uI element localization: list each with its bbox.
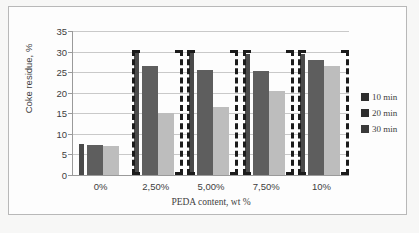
y-tick-mark	[68, 175, 72, 176]
legend-item[interactable]: 10 min	[361, 89, 419, 105]
y-tick-label: 25	[41, 67, 67, 78]
x-tick-label: 7,50%	[253, 181, 280, 192]
x-tick-label: 5,00%	[198, 181, 225, 192]
bar	[79, 144, 84, 175]
bar	[324, 66, 340, 175]
bar	[158, 113, 174, 175]
y-tick-mark	[68, 52, 72, 53]
annotation-bracket-cap	[286, 172, 294, 175]
y-tick-label: 30	[41, 46, 67, 57]
annotation-bracket-cap	[187, 50, 195, 53]
figure-background: Coke residue, % 05101520253035 0%2,50%5,…	[0, 0, 419, 233]
y-tick-label: 5	[41, 149, 67, 160]
y-tick-label: 35	[41, 26, 67, 37]
x-tick-label: 2,50%	[142, 181, 169, 192]
gridline	[73, 175, 349, 176]
bar	[197, 70, 213, 175]
bar-group	[294, 31, 349, 175]
annotation-bracket-cap	[341, 50, 349, 53]
y-axis-title: Coke residue, %	[23, 29, 34, 129]
y-tick-mark	[68, 93, 72, 94]
y-axis-tick-labels: 05101520253035	[37, 31, 67, 176]
annotation-bracket	[187, 50, 190, 175]
x-tick-label: 10%	[312, 181, 331, 192]
x-axis-tick-labels: 0%2,50%5,00%7,50%10%	[73, 181, 349, 195]
annotation-bracket-cap	[175, 50, 183, 53]
annotation-bracket-cap	[298, 172, 306, 175]
legend-swatch-icon	[361, 125, 369, 133]
chart-legend: 10 min20 min30 min	[361, 89, 419, 137]
y-tick-label: 0	[41, 170, 67, 181]
legend-swatch-icon	[361, 109, 369, 117]
y-tick-mark	[68, 154, 72, 155]
bar-group	[239, 31, 294, 175]
plot-area	[73, 31, 349, 175]
annotation-bracket-cap	[132, 172, 140, 175]
legend-label: 30 min	[372, 124, 397, 134]
x-tick-label: 0%	[94, 181, 108, 192]
bar	[213, 107, 229, 175]
annotation-bracket-cap	[230, 50, 238, 53]
annotation-bracket	[243, 50, 246, 175]
legend-item[interactable]: 30 min	[361, 121, 419, 137]
bar	[142, 66, 158, 175]
legend-item[interactable]: 20 min	[361, 105, 419, 121]
y-tick-mark	[68, 31, 72, 32]
bar-group	[73, 31, 128, 175]
annotation-bracket-cap	[230, 172, 238, 175]
y-tick-label: 15	[41, 108, 67, 119]
legend-label: 20 min	[372, 108, 397, 118]
annotation-bracket	[298, 50, 301, 175]
bar	[253, 71, 269, 175]
legend-swatch-icon	[361, 93, 369, 101]
bar-group	[183, 31, 238, 175]
annotation-bracket	[346, 50, 349, 175]
bar-group	[128, 31, 183, 175]
annotation-bracket-cap	[243, 50, 251, 53]
annotation-bracket	[132, 50, 135, 175]
annotation-bracket-cap	[286, 50, 294, 53]
bar	[308, 60, 324, 175]
annotation-bracket-cap	[132, 50, 140, 53]
annotation-bracket-cap	[298, 50, 306, 53]
bar	[103, 146, 119, 175]
y-tick-label: 10	[41, 128, 67, 139]
bar	[269, 91, 285, 175]
legend-label: 10 min	[372, 92, 397, 102]
x-axis-title: PEDA content, wt %	[73, 197, 349, 207]
annotation-bracket-cap	[187, 172, 195, 175]
annotation-bracket-cap	[243, 172, 251, 175]
y-tick-mark	[68, 113, 72, 114]
bar	[87, 145, 103, 175]
y-tick-mark	[68, 72, 72, 73]
y-tick-label: 20	[41, 87, 67, 98]
chart-frame: Coke residue, % 05101520253035 0%2,50%5,…	[8, 6, 407, 215]
annotation-bracket-cap	[341, 172, 349, 175]
annotation-bracket-cap	[175, 172, 183, 175]
y-tick-mark	[68, 134, 72, 135]
